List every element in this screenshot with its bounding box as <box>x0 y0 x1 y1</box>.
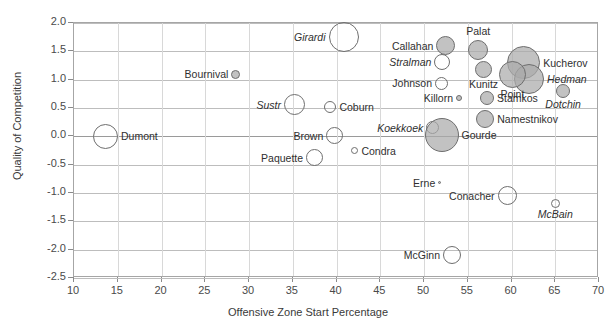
x-tick-label: 15 <box>102 285 132 296</box>
point-label-erne: Erne <box>413 177 435 188</box>
gridline-horizontal <box>74 278 597 279</box>
bubble-mcginn[interactable] <box>443 246 461 264</box>
point-label-johnson: Johnson <box>392 78 432 89</box>
gridline-vertical <box>337 23 338 276</box>
bubble-johnson[interactable] <box>435 77 448 90</box>
x-axis-title: Offensive Zone Start Percentage <box>0 306 616 318</box>
gridline-horizontal <box>74 250 597 251</box>
point-label-kucherov: Kucherov <box>543 57 587 68</box>
x-tick-label: 45 <box>364 285 394 296</box>
bubble-dotchin[interactable] <box>556 84 570 98</box>
point-label-condra: Condra <box>361 145 395 156</box>
bubble-stralman[interactable] <box>434 54 450 70</box>
point-label-dotchin: Dotchin <box>545 99 581 110</box>
x-tick-label: 40 <box>321 285 351 296</box>
point-label-stralman: Stralman <box>389 56 431 67</box>
point-label-hedman: Hedman <box>547 73 587 84</box>
gridline-vertical <box>293 23 294 276</box>
bubble-killorn[interactable] <box>456 95 462 101</box>
point-label-palat: Palat <box>466 26 490 37</box>
x-tick-label: 10 <box>58 285 88 296</box>
y-tick-label: -1.0 <box>24 186 66 197</box>
point-label-killorn: Killorn <box>424 92 453 103</box>
bubble-dumont[interactable] <box>93 124 118 149</box>
y-axis-title: Quality of Competition <box>11 46 23 206</box>
gridline-horizontal <box>74 221 597 222</box>
point-label-brown: Brown <box>293 130 323 141</box>
bubble-conacher[interactable] <box>498 186 517 205</box>
point-label-sustr: Sustr <box>256 99 281 110</box>
x-tick-label: 70 <box>583 285 613 296</box>
bubble-condra[interactable] <box>351 147 358 154</box>
gridline-vertical <box>205 23 206 276</box>
x-tick-label: 50 <box>408 285 438 296</box>
point-label-kunitz: Kunitz <box>469 79 498 90</box>
x-tick-label: 65 <box>539 285 569 296</box>
y-tick-label: -1.5 <box>24 214 66 225</box>
point-label-mcginn: McGinn <box>404 250 440 261</box>
x-tick-label: 35 <box>277 285 307 296</box>
bubble-point[interactable] <box>499 61 526 88</box>
x-tick-label: 55 <box>452 285 482 296</box>
bubble-bournival[interactable] <box>231 70 240 79</box>
point-label-girardi: Girardi <box>294 32 326 43</box>
point-label-bournival: Bournival <box>185 69 229 80</box>
point-label-dumont: Dumont <box>121 131 158 142</box>
point-label-stamkos: Stamkos <box>497 92 538 103</box>
bubble-namestnikov[interactable] <box>476 110 494 128</box>
bubble-kunitz[interactable] <box>475 61 492 78</box>
gridline-vertical <box>118 23 119 276</box>
point-label-mcbain: McBain <box>538 209 573 220</box>
y-tick-label: 2.0 <box>24 16 66 27</box>
x-tick-label: 60 <box>496 285 526 296</box>
x-tick-label: 25 <box>189 285 219 296</box>
x-tick-label: 20 <box>146 285 176 296</box>
y-tick-label: -2.0 <box>24 243 66 254</box>
bubble-erne[interactable] <box>438 181 441 184</box>
bubble-girardi[interactable] <box>329 22 359 52</box>
x-tick-mark <box>598 277 599 282</box>
y-tick-label: 0.0 <box>24 129 66 140</box>
point-label-conacher: Conacher <box>449 190 495 201</box>
y-tick-label: -0.5 <box>24 158 66 169</box>
bubble-mcbain[interactable] <box>551 199 560 208</box>
gridline-vertical <box>249 23 250 276</box>
bubble-chart: Quality of Competition Offensive Zone St… <box>0 0 616 336</box>
plot-area: DumontBournivalGirardiSustrCoburnBrownPa… <box>73 22 598 277</box>
bubble-brown[interactable] <box>326 127 343 144</box>
y-tick-label: 1.5 <box>24 44 66 55</box>
gridline-horizontal <box>74 193 597 194</box>
gridline-horizontal <box>74 165 597 166</box>
point-label-namestnikov: Namestnikov <box>497 114 558 125</box>
y-tick-label: -2.5 <box>24 271 66 282</box>
bubble-gourde[interactable] <box>425 118 459 152</box>
point-label-callahan: Callahan <box>392 40 433 51</box>
bubble-palat[interactable] <box>468 40 488 60</box>
point-label-gourde: Gourde <box>462 129 497 140</box>
point-label-paquette: Paquette <box>261 152 303 163</box>
gridline-vertical <box>468 23 469 276</box>
bubble-sustr[interactable] <box>284 94 305 115</box>
x-tick-label: 30 <box>233 285 263 296</box>
bubble-stamkos[interactable] <box>480 91 494 105</box>
gridline-vertical <box>162 23 163 276</box>
point-label-coburn: Coburn <box>339 101 373 112</box>
bubble-coburn[interactable] <box>324 101 336 113</box>
y-tick-label: 1.0 <box>24 73 66 84</box>
point-label-koekkoek: Koekkoek <box>377 122 423 133</box>
y-tick-label: 0.5 <box>24 101 66 112</box>
